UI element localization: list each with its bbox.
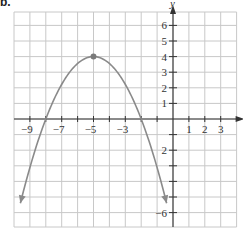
x-tick-label: 3 [218, 123, 224, 135]
parabola-chart: xy−9−7−5−31236543212−6 [0, 0, 243, 229]
x-tick-label: 1 [186, 123, 192, 135]
y-tick-label: 2 [162, 82, 168, 94]
y-tick-label: 2 [162, 144, 168, 156]
tick-labels: xy−9−7−5−31236543212−6 [21, 0, 243, 219]
x-tick-label: −7 [53, 123, 65, 135]
x-tick-label: 2 [202, 123, 208, 135]
vertex-point [91, 54, 97, 60]
y-tick-label: 4 [162, 51, 168, 63]
y-tick-label: 1 [162, 97, 168, 109]
y-tick-label: 6 [162, 19, 168, 31]
x-tick-label: −9 [21, 123, 33, 135]
x-axis-arrow-icon [236, 116, 243, 122]
x-tick-label: −3 [116, 123, 128, 135]
y-tick-label: 5 [162, 35, 168, 47]
y-tick-label: 3 [162, 66, 168, 78]
y-tick-label: −6 [155, 207, 167, 219]
axes [14, 5, 243, 227]
x-tick-label: −5 [85, 123, 97, 135]
y-axis-label: y [169, 0, 175, 9]
